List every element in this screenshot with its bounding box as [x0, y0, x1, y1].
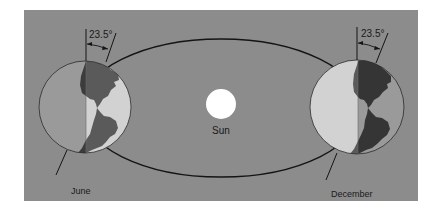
tilt-axis-line [56, 150, 67, 175]
june-label: June [71, 186, 91, 196]
sun-icon [206, 89, 236, 119]
june-tilt-label: 23.5° [89, 29, 112, 40]
tilt-axis-line [326, 153, 337, 180]
june-globe: 23.5° June [38, 29, 134, 196]
december-tilt-label: 23.5° [361, 28, 384, 39]
december-label: December [331, 189, 373, 199]
orbit-diagram: Sun 23.5° June [0, 0, 439, 212]
december-globe: 23.5° December [308, 27, 408, 199]
sun-label: Sun [212, 125, 230, 136]
